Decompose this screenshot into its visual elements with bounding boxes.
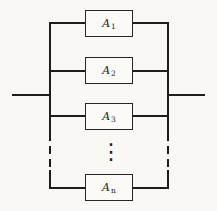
- vertical-ellipsis: ⋮: [103, 137, 119, 165]
- block-a2-subscript: 2: [111, 70, 116, 78]
- block-a3-label: A: [102, 111, 110, 122]
- block-a1: A1: [85, 10, 133, 37]
- block-a1-subscript: 1: [111, 23, 116, 31]
- block-a1-label: A: [102, 18, 110, 29]
- block-a2: A2: [85, 57, 133, 84]
- block-an-subscript: n: [111, 187, 116, 195]
- block-a3: A3: [85, 103, 133, 130]
- block-an-label: A: [102, 182, 110, 193]
- block-an: An: [85, 174, 133, 201]
- block-a3-subscript: 3: [111, 116, 116, 124]
- block-a2-label: A: [102, 65, 110, 76]
- diagram-canvas: A1 A2 A3 An ⋮: [0, 0, 217, 211]
